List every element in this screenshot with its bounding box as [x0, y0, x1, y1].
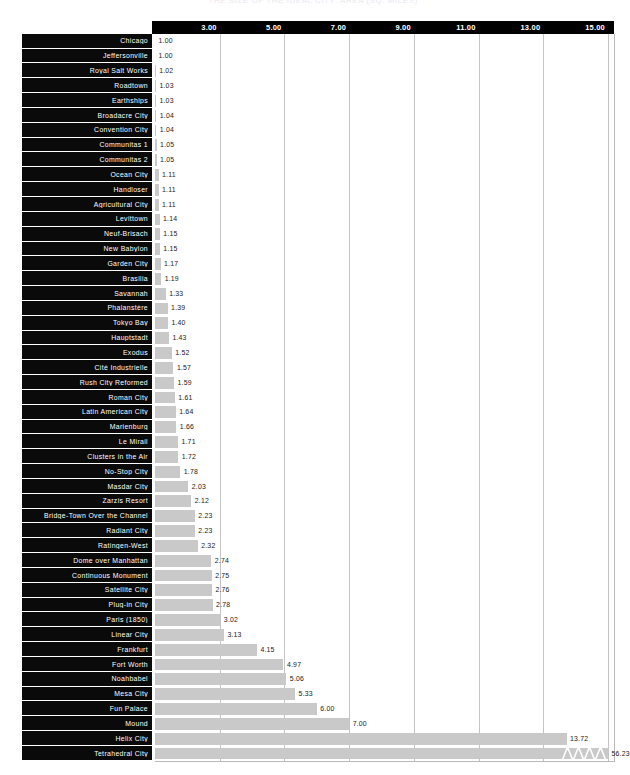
bar — [155, 125, 156, 137]
row-separator — [22, 611, 152, 612]
bar-value-label: 1.03 — [159, 82, 173, 89]
bar-value-label: 1.03 — [159, 97, 173, 104]
row-separator — [22, 77, 152, 78]
bar — [155, 466, 180, 478]
x-axis-tick: 15.00 — [548, 21, 605, 34]
row-separator — [22, 552, 152, 553]
bar — [155, 688, 295, 700]
row-separator — [22, 715, 152, 716]
category-label: Fort Worth — [22, 661, 148, 668]
category-label: Brasilia — [22, 275, 148, 282]
category-label: New Babylon — [22, 245, 148, 252]
category-label: Mesa City — [22, 690, 148, 697]
category-label: Masdar City — [22, 483, 148, 490]
bar-value-label: 1.19 — [165, 275, 179, 282]
bar — [155, 214, 160, 226]
row-separator — [22, 151, 152, 152]
bar-value-label: 1.71 — [181, 438, 195, 445]
row-separator — [22, 315, 152, 316]
row-separator — [22, 522, 152, 523]
row-separator — [22, 226, 152, 227]
gridline-13-00 — [543, 34, 544, 761]
category-label: Hauptstadt — [22, 334, 148, 341]
bar-value-label: 1.04 — [160, 126, 174, 133]
bar-value-label: 1.66 — [180, 423, 194, 430]
row-separator — [22, 419, 152, 420]
bar — [155, 659, 283, 671]
bar — [155, 570, 212, 582]
row-separator — [22, 122, 152, 123]
category-label: Helix City — [22, 735, 148, 742]
bar — [155, 258, 161, 270]
bar — [155, 169, 159, 181]
category-label: Garden City — [22, 260, 148, 267]
bar-value-label: 2.23 — [198, 512, 212, 519]
bar-value-label: 1.40 — [171, 319, 185, 326]
chart-title: THE SIZE OF THE IDEAL CITY: AREA (SQ. MI… — [0, 0, 626, 5]
category-label: Mound — [22, 720, 148, 727]
category-label: Tokyo Bay — [22, 319, 148, 326]
row-separator — [22, 582, 152, 583]
bar-value-label: 1.11 — [162, 186, 176, 193]
bar — [155, 273, 161, 285]
bar-value-label: 1.78 — [184, 468, 198, 475]
bar-value-label: 1.39 — [171, 304, 185, 311]
bar — [155, 495, 191, 507]
row-separator — [22, 671, 152, 672]
bar-value-label: 1.72 — [182, 453, 196, 460]
bar-value-label: 1.05 — [160, 156, 174, 163]
bar — [155, 377, 174, 389]
bar-value-label: 1.00 — [159, 37, 173, 44]
category-label: Continuous Monument — [22, 572, 148, 579]
gridline-5-00 — [284, 34, 285, 761]
category-label: Cité Industrielle — [22, 364, 148, 371]
bar-value-label: 1.04 — [160, 112, 174, 119]
category-label: Dome over Manhattan — [22, 557, 148, 564]
row-separator — [22, 463, 152, 464]
bar-value-label: 7.00 — [353, 720, 367, 727]
bar-value-label: 1.57 — [177, 364, 191, 371]
row-separator — [22, 359, 152, 360]
bar — [155, 65, 156, 77]
bar-value-label: 2.32 — [201, 542, 215, 549]
x-axis-tick: 7.00 — [289, 21, 346, 34]
row-separator — [22, 493, 152, 494]
bar — [155, 80, 156, 92]
category-label: Noahbabel — [22, 675, 148, 682]
category-label: Handloser — [22, 186, 148, 193]
bar — [155, 629, 224, 641]
bar-value-label: 2.23 — [198, 527, 212, 534]
row-separator — [22, 166, 152, 167]
category-label: Clusters in the Air — [22, 453, 148, 460]
bar-value-label: 4.15 — [260, 646, 274, 653]
row-separator — [22, 626, 152, 627]
bar — [155, 599, 213, 611]
bar-value-label: 1.33 — [169, 290, 183, 297]
bar — [155, 154, 157, 166]
category-label: Frankfurt — [22, 646, 148, 653]
row-separator — [22, 211, 152, 212]
row-separator — [22, 448, 152, 449]
bar-value-label: 2.74 — [215, 557, 229, 564]
bar-value-label: 2.76 — [215, 586, 229, 593]
row-separator — [22, 241, 152, 242]
row-separator — [22, 508, 152, 509]
category-label: Paris (1850) — [22, 616, 148, 623]
gridline-15-00 — [608, 34, 609, 761]
bar-value-label: 2.78 — [216, 601, 230, 608]
row-separator — [22, 196, 152, 197]
bar — [155, 481, 188, 493]
row-separator — [22, 255, 152, 256]
bar — [155, 644, 257, 656]
bar — [155, 95, 156, 107]
bar-value-label: 1.61 — [178, 394, 192, 401]
bar-value-label: 3.02 — [224, 616, 238, 623]
row-separator — [22, 597, 152, 598]
bar-value-label: 6.00 — [320, 705, 334, 712]
bar-value-label: 1.11 — [162, 201, 176, 208]
row-separator — [22, 745, 152, 746]
bar — [155, 332, 169, 344]
row-separator — [22, 92, 152, 93]
category-label: Latin American City — [22, 408, 148, 415]
category-label: Earthships — [22, 97, 148, 104]
